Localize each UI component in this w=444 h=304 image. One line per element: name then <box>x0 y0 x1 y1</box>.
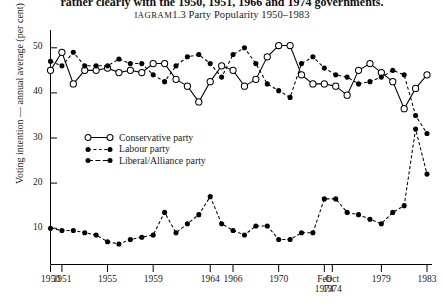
y-axis-ticks <box>50 48 57 228</box>
x-tick-label: 1970 <box>259 274 299 284</box>
data-point <box>71 228 76 233</box>
data-point <box>128 237 133 242</box>
data-point <box>288 95 293 100</box>
y-tick-label: 40 <box>21 86 43 96</box>
data-point <box>116 70 122 76</box>
data-point <box>367 60 373 66</box>
data-point <box>379 75 384 80</box>
data-point <box>413 126 418 131</box>
figure-container: rather clearly with the 1950, 1951, 1966… <box>0 0 444 304</box>
data-point <box>299 230 304 235</box>
data-point <box>367 79 372 84</box>
data-point <box>139 70 145 76</box>
data-point <box>173 230 178 235</box>
data-point <box>196 99 202 105</box>
x-tick-label-line1: 1951 <box>52 274 71 284</box>
data-point <box>94 232 99 237</box>
data-point <box>231 228 236 233</box>
data-point <box>276 237 281 242</box>
data-point <box>151 232 156 237</box>
data-point <box>230 67 236 73</box>
data-point <box>424 131 429 136</box>
data-point <box>345 210 350 215</box>
data-point <box>265 81 270 86</box>
data-point <box>48 59 53 64</box>
data-point <box>71 50 76 55</box>
data-point <box>185 54 190 59</box>
data-point <box>402 72 407 77</box>
legend-item-3: Liberal/Alliance party <box>84 155 206 167</box>
data-point <box>310 54 315 59</box>
data-point <box>196 212 201 217</box>
x-tick-label-line1: 1955 <box>98 274 117 284</box>
series-2 <box>48 45 430 136</box>
data-point <box>253 76 259 82</box>
x-tick-label-line1: 1983 <box>418 274 437 284</box>
data-point <box>185 221 190 226</box>
data-point <box>59 49 65 55</box>
data-point <box>402 203 407 208</box>
data-point <box>59 63 64 68</box>
data-point <box>196 52 201 57</box>
y-tick-label: 20 <box>21 177 43 187</box>
data-point <box>333 72 338 77</box>
data-point <box>162 79 167 84</box>
x-tick-label-line1: 1979 <box>372 274 391 284</box>
data-point <box>161 60 167 66</box>
data-point <box>59 228 64 233</box>
x-tick-label-line1: 1959 <box>144 274 163 284</box>
data-point <box>321 81 327 87</box>
x-tick-label-line1: Oct <box>325 274 339 284</box>
y-tick-label: 30 <box>21 132 43 142</box>
data-point <box>150 60 156 66</box>
data-point <box>287 42 293 48</box>
data-point <box>390 68 395 73</box>
data-point <box>105 63 110 68</box>
x-tick-label-line1: 1970 <box>269 274 288 284</box>
data-point <box>105 239 110 244</box>
data-point <box>264 54 270 60</box>
data-point <box>367 217 372 222</box>
legend-point <box>107 135 113 141</box>
data-point <box>333 83 339 89</box>
data-point <box>401 106 407 112</box>
plot-area <box>0 0 444 304</box>
legend-marker-open-circle <box>84 132 114 143</box>
data-point <box>173 63 178 68</box>
data-point <box>424 72 430 78</box>
data-point <box>310 81 316 87</box>
data-point <box>322 66 327 71</box>
legend-marker-filled-circle <box>84 155 114 166</box>
legend-point <box>85 135 91 141</box>
legend-label: Conservative party <box>119 132 193 144</box>
data-point <box>48 226 53 231</box>
legend-item-1: Conservative party <box>84 132 206 144</box>
data-point <box>356 212 361 217</box>
data-point <box>242 232 247 237</box>
data-point <box>116 57 121 62</box>
data-point <box>288 237 293 242</box>
legend-point <box>108 158 113 163</box>
data-point <box>128 61 133 66</box>
series-line <box>51 46 428 109</box>
data-point <box>355 67 361 73</box>
data-point <box>162 210 167 215</box>
data-point <box>379 221 384 226</box>
data-point <box>231 52 236 57</box>
data-point <box>310 230 315 235</box>
data-point <box>276 42 282 48</box>
legend-point <box>108 147 113 152</box>
data-point <box>139 61 144 66</box>
data-point <box>356 81 361 86</box>
legend-point <box>86 147 91 152</box>
series-1 <box>47 42 430 111</box>
legend-point <box>86 158 91 163</box>
x-tick-label: 1951 <box>42 274 82 284</box>
data-point <box>322 196 327 201</box>
data-point <box>208 194 213 199</box>
data-point <box>241 83 247 89</box>
x-tick-label-line1: 1966 <box>224 274 243 284</box>
legend-label: Liberal/Alliance party <box>119 155 206 167</box>
data-point <box>116 241 121 246</box>
data-point <box>412 85 418 91</box>
